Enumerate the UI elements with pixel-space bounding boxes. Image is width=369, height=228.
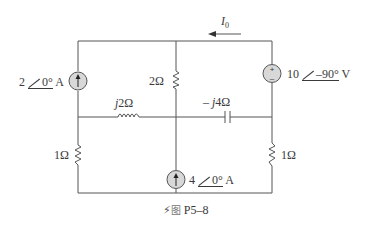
magnitude: 10 [287,67,299,81]
angle: –90° [302,68,339,81]
unit: A [225,173,234,187]
current-subscript: 0 [225,21,229,30]
label-resistor-1ohm-right: 1Ω [281,148,296,162]
resistor-2ohm [173,71,179,89]
magnitude: 4 [189,173,195,187]
value: 2Ω [118,96,133,110]
angle-value: 0° [42,75,53,89]
resistor-1ohm-right [269,143,275,166]
angle-value: 0° [212,173,223,187]
caption-prefix: 图 [171,205,181,216]
label-resistor-1ohm-left: 1Ω [54,148,69,162]
imag-prefix: – j [203,95,215,109]
lightning-icon: ⚡ [163,204,171,217]
voltage-source-right: + – [263,65,281,84]
figure-caption: ⚡图 P5–8 [163,203,208,218]
current-label-i0: I0 [221,14,229,33]
current-source-middle [167,171,185,189]
unit: V [342,67,351,81]
current-arrow-icon [208,31,216,37]
circuit-diagram: + – [0,0,369,228]
unit: A [55,75,64,89]
label-current-source-middle: 4 0° A [189,173,234,187]
caption-label: P5–8 [184,203,209,217]
resistor-1ohm-left [75,145,81,165]
magnitude: 2 [19,75,25,89]
value: 4Ω [215,95,230,109]
angle: 0° [28,76,53,89]
angle: 0° [198,174,223,187]
svg-text:–: – [270,74,275,83]
angle-value: –90° [316,67,339,81]
label-current-source-left: 2 0° A [19,75,64,89]
label-inductor: j2Ω [115,96,133,110]
current-source-left [69,72,87,90]
inductor-j2ohm [118,114,139,117]
label-voltage-source: 10 –90° V [287,67,350,81]
svg-text:+: + [270,65,275,74]
label-resistor-2ohm: 2Ω [149,74,164,88]
label-capacitor: – j4Ω [203,95,230,109]
